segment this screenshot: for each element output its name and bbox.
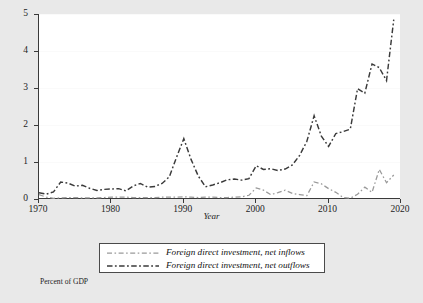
legend-swatch-net-inflows xyxy=(106,248,160,258)
x-tick-mark xyxy=(38,199,39,203)
y-tick-mark xyxy=(34,125,38,126)
x-tick-mark xyxy=(255,199,256,203)
x-axis-title: Year xyxy=(0,211,423,221)
x-tick-mark xyxy=(400,199,401,203)
data-series-layer xyxy=(39,14,401,199)
plot-area xyxy=(38,14,400,199)
series-line-net-inflows xyxy=(39,169,394,198)
y-tick-mark xyxy=(34,51,38,52)
y-tick-label: 4 xyxy=(12,46,28,56)
chart-legend: Foreign direct investment, net inflows F… xyxy=(99,243,325,273)
chart-footnote: Percent of GDP xyxy=(40,277,88,286)
legend-swatch-net-outflows xyxy=(106,261,160,271)
y-tick-mark xyxy=(34,88,38,89)
legend-item-net-inflows: Foreign direct investment, net inflows xyxy=(100,246,324,259)
y-tick-label: 3 xyxy=(12,83,28,93)
y-tick-label: 2 xyxy=(12,120,28,130)
y-tick-label: 5 xyxy=(12,9,28,19)
x-tick-mark xyxy=(110,199,111,203)
y-tick-label: 0 xyxy=(12,194,28,204)
y-tick-mark xyxy=(34,162,38,163)
chart-root: 012345 197019801990200020102020 Year For… xyxy=(0,0,423,303)
legend-label-net-outflows: Foreign direct investment, net outflows xyxy=(166,261,310,270)
series-line-net-outflows xyxy=(39,20,394,195)
legend-label-net-inflows: Foreign direct investment, net inflows xyxy=(166,248,305,257)
y-tick-label: 1 xyxy=(12,157,28,167)
x-tick-mark xyxy=(328,199,329,203)
y-tick-mark xyxy=(34,14,38,15)
x-tick-mark xyxy=(183,199,184,203)
legend-item-net-outflows: Foreign direct investment, net outflows xyxy=(100,259,324,272)
